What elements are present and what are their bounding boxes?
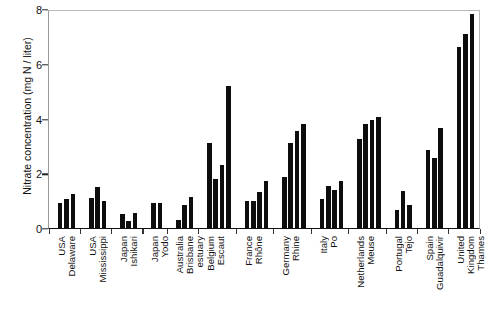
bar: [207, 143, 212, 228]
x-axis-separator: [111, 229, 112, 234]
x-axis-group-label: USAMississippi: [88, 236, 108, 308]
bar: [288, 143, 293, 228]
x-axis-label-line: Thames: [476, 236, 485, 271]
bar: [407, 205, 412, 228]
y-tick-mark: [42, 64, 48, 65]
bar: [126, 221, 131, 228]
x-axis-group-label: PortugalTejo: [394, 236, 414, 308]
x-axis-label-line: Ishikari: [129, 236, 139, 266]
x-axis-separator: [480, 229, 481, 234]
bar: [133, 213, 138, 228]
y-tick-mark: [42, 9, 48, 10]
bar: [301, 124, 306, 228]
x-axis-separator: [198, 229, 199, 234]
bar: [370, 120, 375, 228]
y-tick-mark: [42, 119, 48, 120]
x-axis-label-line: Meuse: [366, 236, 376, 265]
x-axis-separator: [167, 229, 168, 234]
x-axis-label-line: Mississippi: [98, 236, 108, 282]
x-axis-label-line: Po: [329, 236, 339, 248]
x-axis-group-label: BelgiumEscaut: [206, 236, 226, 308]
bar: [64, 199, 69, 228]
x-axis-separator: [273, 229, 274, 234]
bar: [120, 214, 125, 228]
x-axis-label-line: estuary: [195, 236, 205, 267]
x-axis-separator: [49, 229, 50, 234]
x-axis-separator: [142, 229, 143, 234]
x-axis-label-line: Tejo: [404, 236, 414, 254]
bar: [257, 192, 262, 228]
bar: [102, 201, 107, 228]
bar: [332, 190, 337, 228]
x-axis-separator: [311, 229, 312, 234]
bar: [182, 205, 187, 228]
bar: [58, 203, 63, 228]
bar: [89, 198, 94, 228]
x-axis-group-label: JapanIshikari: [119, 236, 139, 308]
bar: [71, 194, 76, 228]
x-axis-group-label: NetherlandsMeuse: [356, 236, 376, 308]
bar: [295, 131, 300, 228]
bar: [245, 201, 250, 228]
plot-area: [48, 10, 480, 229]
y-tick-label: 4: [16, 114, 42, 126]
bar: [189, 197, 194, 228]
x-axis-group-label: ItalyPo: [319, 236, 339, 308]
y-tick-mark: [42, 228, 48, 229]
x-axis-separator: [448, 229, 449, 234]
bar: [326, 186, 331, 228]
x-axis-group-label: JapanYodo: [150, 236, 170, 308]
bar: [401, 191, 406, 228]
bar: [95, 187, 100, 228]
x-axis-group-label: UnitedKingdomThames: [456, 236, 485, 308]
bar: [226, 86, 231, 228]
bar: [470, 14, 475, 228]
bar: [363, 124, 368, 228]
bar: [176, 220, 181, 228]
x-axis-group-label: AustraliaBrisbaneestuary: [175, 236, 205, 308]
y-tick-label: 2: [16, 168, 42, 180]
x-axis-group-label: GermanyRhine: [281, 236, 301, 308]
bar: [282, 177, 287, 228]
x-axis-label-line: Escaut: [216, 236, 226, 265]
bar: [251, 201, 256, 228]
y-tick-label: 8: [16, 4, 42, 16]
x-axis-label-line: Rhine: [291, 236, 301, 261]
bar: [438, 128, 443, 228]
x-axis-label-line: Rhône: [254, 236, 264, 264]
bar: [457, 47, 462, 228]
bar: [432, 158, 437, 228]
bar: [357, 139, 362, 228]
bar: [426, 150, 431, 228]
x-axis-separator: [386, 229, 387, 234]
bar: [320, 199, 325, 228]
y-tick-mark: [42, 174, 48, 175]
y-tick-label: 0: [16, 223, 42, 235]
x-axis-group-label: FranceRhône: [244, 236, 264, 308]
bar: [395, 210, 400, 228]
bar: [151, 203, 156, 228]
x-axis-label-line: Delaware: [67, 236, 77, 277]
bar: [158, 203, 163, 228]
bar: [463, 34, 468, 228]
x-axis-label-line: Yodo: [160, 236, 170, 258]
bars-container: [49, 11, 479, 228]
bar: [213, 179, 218, 228]
x-axis-group-label: SpainGuadalquivir: [425, 236, 445, 308]
bar: [376, 117, 381, 228]
x-axis-separator: [80, 229, 81, 234]
bar: [339, 181, 344, 228]
x-axis-separator: [348, 229, 349, 234]
x-axis-separator: [417, 229, 418, 234]
chart-root: Nitrate concentration (mg N / liter) 024…: [0, 0, 485, 309]
x-axis-label-line: Guadalquivir: [435, 236, 445, 290]
x-axis-group-label: USADelaware: [57, 236, 77, 308]
bar: [264, 181, 269, 228]
bar: [220, 165, 225, 228]
x-axis-separator: [236, 229, 237, 234]
y-tick-label: 6: [16, 59, 42, 71]
